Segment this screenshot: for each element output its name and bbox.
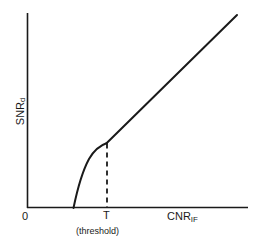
threshold-note-label: (threshold) [76, 227, 119, 236]
snr-vs-cnr-figure: 0 CNRIF SNRd T (threshold) [0, 0, 259, 246]
x-axis-label-base: CNR [167, 210, 191, 222]
y-axis-label: SNRd [15, 81, 28, 141]
threshold-tick-label: T [103, 210, 110, 221]
data-curve [74, 143, 108, 208]
y-axis-label-subscript: d [18, 98, 27, 102]
y-axis-label-base: SNR [14, 102, 26, 125]
data-line-linear-region [107, 15, 238, 143]
origin-label: 0 [22, 211, 28, 222]
chart-canvas [0, 0, 259, 246]
x-axis-label-subscript: IF [191, 215, 198, 224]
x-axis-label: CNRIF [167, 211, 198, 224]
